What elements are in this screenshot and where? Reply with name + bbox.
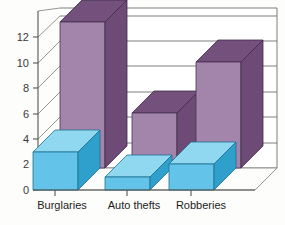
y-tick-label-2: 2 (23, 158, 29, 170)
y-tick-label-12: 12 (17, 31, 29, 43)
chart-canvas: 12 10 8 6 4 2 0 (0, 0, 285, 225)
y-tick-label-4: 4 (23, 133, 29, 145)
depth-line-8 (38, 66, 60, 88)
category-label-auto-thefts: Auto thefts (108, 199, 161, 211)
bar-chart-3d: 12 10 8 6 4 2 0 (0, 0, 285, 225)
depth-line-6 (38, 92, 60, 114)
y-tick-label-8: 8 (23, 82, 29, 94)
bar-front-face (105, 177, 150, 190)
bar-side-face (241, 40, 263, 168)
x-axis-category-labels: Burglaries Auto thefts Robberies (37, 199, 226, 211)
bar-front-face (33, 152, 78, 190)
bar-side-face (105, 0, 127, 168)
depth-line-10 (38, 41, 60, 63)
x-axis (33, 190, 255, 196)
category-label-robberies: Robberies (176, 199, 227, 211)
depth-line-top (38, 8, 60, 11)
y-tick-label-6: 6 (23, 108, 29, 120)
y-tick-label-10: 10 (17, 57, 29, 69)
depth-line-12 (38, 16, 60, 37)
y-tick-label-0: 0 (23, 184, 29, 196)
bar-front-face (169, 164, 214, 190)
category-label-burglaries: Burglaries (37, 199, 87, 211)
y-axis-tick-labels: 12 10 8 6 4 2 0 (17, 31, 29, 196)
